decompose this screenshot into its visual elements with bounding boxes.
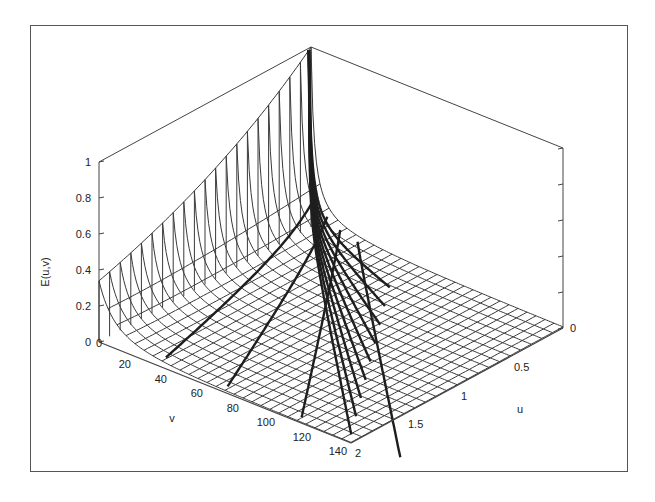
thick-cross-curve	[166, 194, 317, 357]
right-z-tick	[558, 256, 563, 257]
right-z-tick	[558, 148, 563, 149]
back-top-edges	[99, 47, 563, 162]
z-tick-label: 0.2	[76, 300, 91, 312]
v-tick-label: 0	[96, 337, 102, 349]
v-axis-title: v	[169, 412, 175, 424]
mesh-line-u	[269, 105, 521, 350]
right-z-tick	[558, 292, 563, 293]
v-tick-label: 120	[293, 431, 311, 443]
surface-plot: 00.20.40.60.810 0204060801001201400.511.…	[0, 0, 655, 502]
v-tick-label: 60	[191, 387, 203, 399]
v-tick-label: 20	[119, 358, 131, 370]
z-axis-title: E(u,v)	[39, 257, 51, 286]
z-tick	[99, 269, 104, 270]
z-tick	[99, 197, 104, 198]
z-tick-label: 1	[85, 156, 91, 168]
v-tick-label: 100	[257, 416, 275, 428]
z-tick-label: 0.4	[76, 264, 91, 276]
z-tick	[99, 233, 104, 234]
u-tick-label: 1	[461, 390, 467, 402]
u-tick-label: 1.5	[408, 418, 423, 430]
surface-mesh	[99, 47, 563, 442]
z-tick-label: 0.8	[76, 192, 91, 204]
mesh-line-u	[300, 62, 552, 332]
thick-curve	[309, 50, 380, 325]
v-tick-label: 80	[227, 402, 239, 414]
v-tick-label: 140	[329, 445, 347, 457]
v-tick-label: 40	[155, 373, 167, 385]
u-axis-title: u	[517, 403, 523, 415]
u-tick-label: 0.5	[514, 361, 529, 373]
z-tick-label: 0	[85, 336, 91, 348]
right-z-tick	[558, 184, 563, 185]
z-tick-label: 0.6	[76, 228, 91, 240]
right-z-tick	[558, 220, 563, 221]
front-base-edges	[99, 328, 563, 443]
z-tick	[99, 305, 104, 306]
mesh-line-u	[237, 144, 489, 367]
mesh-line-v	[180, 254, 392, 370]
u-tick-label: 0	[570, 322, 576, 334]
u-tick-label: 2	[355, 447, 361, 459]
